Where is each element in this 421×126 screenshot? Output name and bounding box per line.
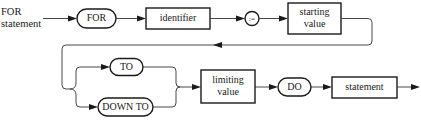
node-statement: statement (332, 77, 397, 98)
node-assign-label: := (249, 15, 255, 23)
node-down-to-label: DOWN TO (102, 101, 149, 112)
node-starting-value: starting value (288, 3, 341, 34)
arrowhead-icon (213, 42, 222, 48)
diagram-title-line2: statement (1, 18, 41, 29)
arrowhead-icon (89, 104, 98, 110)
arrowhead-icon (411, 84, 420, 90)
arrowhead-icon (269, 84, 278, 90)
for-statement-syntax-diagram: FOR statement FOR identifier := starting (0, 0, 421, 126)
edge-start-to-for (43, 16, 77, 22)
branch-merge (143, 67, 201, 107)
node-statement-label: statement (345, 81, 384, 92)
node-down-to: DOWN TO (98, 98, 153, 116)
node-for-label: FOR (87, 12, 107, 23)
node-starting-value-label-line2: value (304, 18, 326, 29)
arrowhead-icon (279, 16, 288, 22)
node-identifier-label: identifier (160, 12, 197, 23)
node-limiting-value: limiting value (201, 70, 255, 103)
diagram-title-line1: FOR (1, 6, 21, 17)
edge-do-to-statement (311, 84, 332, 90)
node-for: FOR (77, 9, 116, 28)
node-do: DO (278, 78, 311, 96)
edge-identifier-to-assign (210, 16, 245, 22)
arrowhead-icon (323, 84, 332, 90)
node-do-label: DO (287, 81, 301, 92)
node-limiting-value-label-line2: value (217, 86, 239, 97)
node-limiting-value-label-line1: limiting (212, 74, 244, 85)
arrowhead-icon (101, 64, 110, 70)
edge-assign-to-starting-value (259, 16, 288, 22)
arrowhead-icon (137, 16, 146, 22)
node-to: TO (110, 59, 143, 76)
arrowhead-icon (68, 16, 77, 22)
node-starting-value-label-line1: starting (300, 6, 330, 17)
node-assign: := (245, 12, 259, 26)
node-to-label: TO (120, 61, 133, 72)
node-identifier: identifier (146, 8, 210, 29)
arrowhead-icon (236, 16, 245, 22)
edge-limiting-value-to-do (255, 84, 278, 90)
edge-statement-to-end (397, 84, 420, 90)
arrowhead-icon (192, 84, 201, 90)
edge-for-to-identifier (116, 16, 146, 22)
